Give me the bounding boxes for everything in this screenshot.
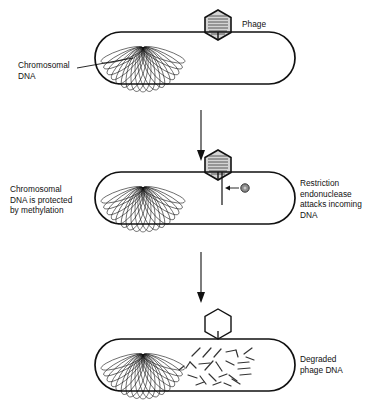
restriction-modification-diagram: Chromosomal DNA Phage <box>0 0 380 406</box>
label-phage: Phage <box>242 19 278 29</box>
phage-icon-stage1 <box>205 10 231 40</box>
phage-icon-stage3 <box>205 309 231 339</box>
phage-icon-stage2 <box>205 150 231 180</box>
label-degraded-phage-dna: Degraded phage DNA <box>300 354 354 375</box>
